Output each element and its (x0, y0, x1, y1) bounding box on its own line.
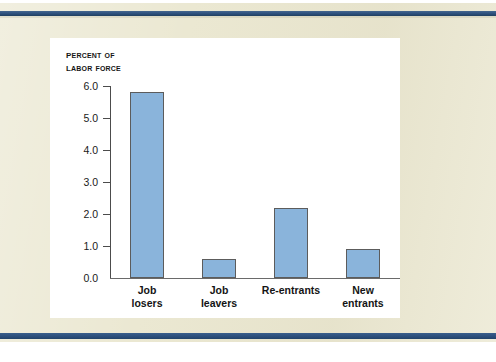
y-axis-line (110, 86, 111, 278)
y-tick-label: 5.0 (58, 112, 98, 124)
x-category-label-re-entrants: Re-entrants (255, 284, 327, 297)
y-tick-label: 3.0 (58, 176, 98, 188)
y-tick-mark (103, 246, 110, 247)
y-tick-mark (103, 150, 110, 151)
y-tick-mark (103, 86, 110, 87)
page-root: Percent of Labor force 6.0 5.0 4.0 3.0 2… (0, 0, 496, 362)
x-category-label-job-losers: Job losers (111, 284, 183, 309)
x-category-line1: New (327, 284, 399, 297)
y-tick-mark (103, 118, 110, 119)
x-category-line2: entrants (327, 297, 399, 310)
x-category-label-new-entrants: New entrants (327, 284, 399, 309)
x-category-line1: Job (183, 284, 255, 297)
bar-job-leavers[interactable] (202, 259, 236, 278)
x-axis-line (110, 278, 400, 279)
top-rule-shadow (0, 16, 496, 18)
y-tick-mark (103, 182, 110, 183)
y-tick-label: 1.0 (58, 240, 98, 252)
x-category-line2: leavers (183, 297, 255, 310)
chart-panel: Percent of Labor force 6.0 5.0 4.0 3.0 2… (50, 38, 400, 318)
bar-re-entrants[interactable] (274, 208, 308, 278)
x-category-line1: Job (111, 284, 183, 297)
bar-job-losers[interactable] (130, 92, 164, 278)
plot-area: 6.0 5.0 4.0 3.0 2.0 1.0 0.0 Job losers J… (50, 38, 400, 318)
x-category-line2: losers (111, 297, 183, 310)
x-category-label-job-leavers: Job leavers (183, 284, 255, 309)
bar-new-entrants[interactable] (346, 249, 380, 278)
y-tick-label: 4.0 (58, 144, 98, 156)
x-category-line1: Re-entrants (255, 284, 327, 297)
bottom-rule (0, 333, 496, 339)
y-tick-mark (103, 214, 110, 215)
y-tick-label: 6.0 (58, 80, 98, 92)
y-tick-label: 0.0 (58, 272, 98, 284)
y-tick-label: 2.0 (58, 208, 98, 220)
